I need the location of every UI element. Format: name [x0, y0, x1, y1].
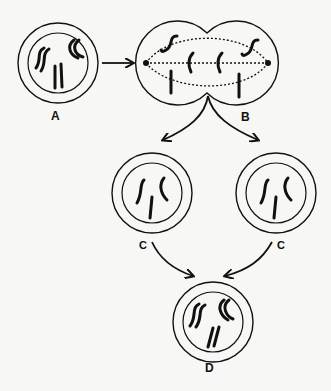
cell-c-left: C: [112, 153, 192, 251]
chromosomes-c-left: [137, 178, 167, 218]
label-a: A: [51, 109, 60, 123]
arrow-c-right-to-d: [225, 242, 272, 276]
label-c-right: C: [277, 239, 285, 251]
cell-a: A: [18, 23, 98, 123]
cell-c-right: C: [236, 153, 316, 251]
spindle-pole-right: [265, 60, 271, 66]
label-b: B: [241, 110, 250, 124]
diagram-canvas: A B C: [0, 0, 331, 391]
spindle-pole-left: [143, 60, 149, 66]
arrow-b-to-c-left: [163, 96, 208, 140]
arrow-c-left-to-d: [152, 242, 193, 276]
spindle-fibers: [146, 38, 268, 86]
cell-b: B: [136, 21, 279, 124]
chromosomes-d: [190, 300, 233, 347]
chromosomes-c-right: [261, 178, 291, 218]
cell-d: D: [173, 282, 253, 375]
label-c-left: C: [139, 239, 147, 251]
label-d: D: [205, 361, 214, 375]
chromosomes-a: [36, 40, 83, 88]
